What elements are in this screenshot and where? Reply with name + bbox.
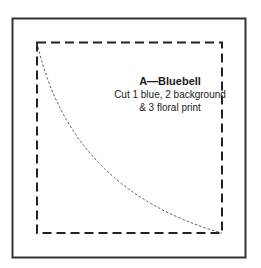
curved-cut-line bbox=[37, 43, 222, 234]
outer-border bbox=[13, 19, 246, 258]
cut-instruction-line-1: Cut 1 blue, 2 background bbox=[108, 88, 232, 101]
template-diagram bbox=[0, 0, 261, 268]
cut-instruction-line-2: & 3 floral print bbox=[108, 101, 232, 114]
seam-line-dashed bbox=[37, 43, 222, 234]
piece-label: A—Bluebell Cut 1 blue, 2 background & 3 … bbox=[108, 75, 232, 114]
piece-title: A—Bluebell bbox=[108, 75, 232, 88]
